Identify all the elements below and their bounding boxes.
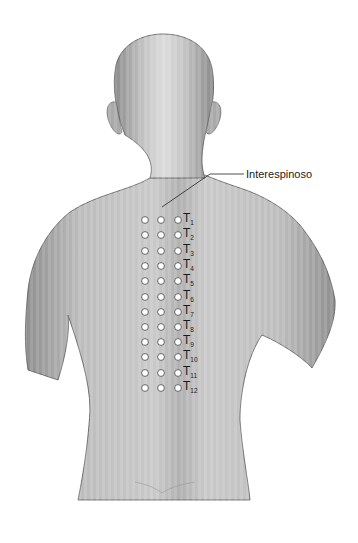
dot-t2-col3 bbox=[175, 232, 182, 239]
dot-t7-col3 bbox=[175, 309, 182, 316]
dot-t5-col3 bbox=[175, 278, 182, 285]
dot-t12-col3 bbox=[175, 385, 182, 392]
dot-t12-col1 bbox=[142, 385, 149, 392]
dot-t3-col2 bbox=[158, 248, 165, 255]
dot-t10-col3 bbox=[175, 354, 182, 361]
dot-t11-col1 bbox=[142, 370, 149, 377]
dot-t9-col2 bbox=[158, 339, 165, 346]
dot-t10-col2 bbox=[158, 354, 165, 361]
dot-t11-col3 bbox=[175, 370, 182, 377]
dot-t4-col2 bbox=[158, 263, 165, 270]
dot-t5-col1 bbox=[142, 278, 149, 285]
dot-t12-col2 bbox=[158, 385, 165, 392]
dot-t6-col1 bbox=[142, 294, 149, 301]
dot-t8-col1 bbox=[142, 324, 149, 331]
dot-t2-col2 bbox=[158, 232, 165, 239]
dot-t4-col3 bbox=[175, 263, 182, 270]
dot-t7-col2 bbox=[158, 309, 165, 316]
dot-t8-col2 bbox=[158, 324, 165, 331]
torso-illustration bbox=[0, 0, 358, 543]
dot-t7-col1 bbox=[142, 309, 149, 316]
dot-t9-col3 bbox=[175, 339, 182, 346]
dot-t6-col2 bbox=[158, 294, 165, 301]
dot-t11-col2 bbox=[158, 370, 165, 377]
dot-t9-col1 bbox=[142, 339, 149, 346]
dot-t10-col1 bbox=[142, 354, 149, 361]
dot-t1-col3 bbox=[175, 217, 182, 224]
dot-t3-col1 bbox=[142, 248, 149, 255]
dot-t1-col2 bbox=[158, 217, 165, 224]
dot-t6-col3 bbox=[175, 294, 182, 301]
dot-t2-col1 bbox=[142, 232, 149, 239]
dot-t1-col1 bbox=[142, 217, 149, 224]
vertebra-label-t12: T12 bbox=[183, 380, 198, 397]
dot-t5-col2 bbox=[158, 278, 165, 285]
dot-t3-col3 bbox=[175, 248, 182, 255]
callout-label-interespinoso: Interespinoso bbox=[246, 168, 312, 180]
dot-t4-col1 bbox=[142, 263, 149, 270]
dot-t8-col3 bbox=[175, 324, 182, 331]
